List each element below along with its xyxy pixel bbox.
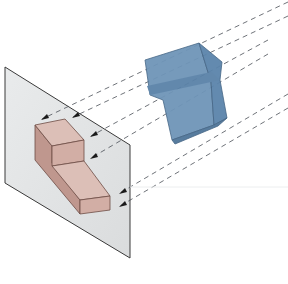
3d-object	[145, 43, 227, 144]
diagram-canvas	[0, 0, 288, 284]
projection-diagram	[0, 0, 288, 284]
